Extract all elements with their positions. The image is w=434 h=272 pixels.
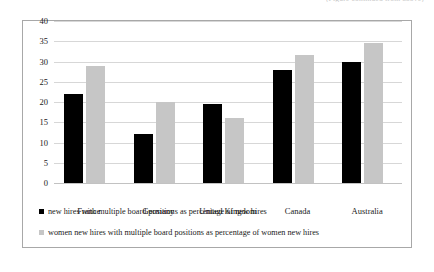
caption-fragment: (Figure continued from above) [326, 0, 424, 2]
y-axis-tick-label: 5 [23, 159, 48, 168]
y-axis-tick-label: 0 [23, 179, 48, 188]
legend-item[interactable]: women new hires with multiple board posi… [23, 222, 413, 243]
legend-swatch-icon [39, 230, 44, 235]
bar [203, 104, 222, 183]
bar-group [332, 21, 402, 183]
y-axis-tick-label: 10 [23, 139, 48, 148]
bar [64, 94, 83, 183]
bars-layer [54, 21, 402, 183]
bar-group [263, 21, 333, 183]
plot-area: 0510152025303540 FranceGermanyUnited Kin… [23, 21, 413, 203]
bar [134, 134, 153, 183]
bar [364, 43, 383, 183]
bar-group [193, 21, 263, 183]
bar [86, 66, 105, 183]
chart-legend: new hires with multiple board positions … [23, 201, 413, 243]
bar [273, 70, 292, 183]
legend-item[interactable]: new hires with multiple board positions … [23, 201, 413, 222]
bar [342, 62, 361, 184]
y-axis-tick-label: 30 [23, 58, 48, 67]
y-axis-tick-label: 20 [23, 98, 48, 107]
legend-item-label: new hires with multiple board positions … [48, 207, 267, 216]
legend-swatch-icon [39, 209, 44, 214]
bar-group [54, 21, 124, 183]
y-axis-tick-label: 40 [23, 17, 48, 26]
bar [156, 102, 175, 183]
y-axis-tick-label: 25 [23, 78, 48, 87]
y-axis-tick-label: 15 [23, 118, 48, 127]
bar [295, 55, 314, 183]
bar-group [124, 21, 194, 183]
bar [225, 118, 244, 183]
y-axis-tick-label: 35 [23, 37, 48, 46]
legend-item-label: women new hires with multiple board posi… [48, 228, 319, 237]
gridline [54, 183, 402, 184]
chart-figure-frame: 0510152025303540 FranceGermanyUnited Kin… [22, 20, 412, 248]
